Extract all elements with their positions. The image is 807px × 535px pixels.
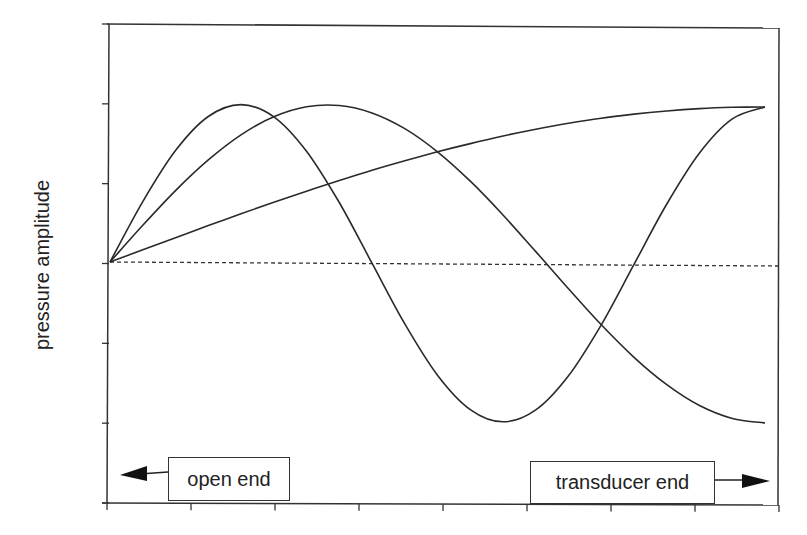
transducer-end-label: transducer end	[530, 461, 715, 504]
y-axis-label: pressure amplitude	[31, 180, 54, 350]
curves	[110, 105, 765, 423]
open-end-arrow-icon	[120, 466, 168, 481]
plot-top-border	[107, 24, 779, 28]
open-end-label: open end	[168, 457, 290, 501]
transducer-end-arrow-icon	[715, 474, 770, 488]
chart-plot	[0, 0, 807, 535]
zero-line	[110, 262, 779, 266]
curve-series-1	[110, 107, 765, 262]
